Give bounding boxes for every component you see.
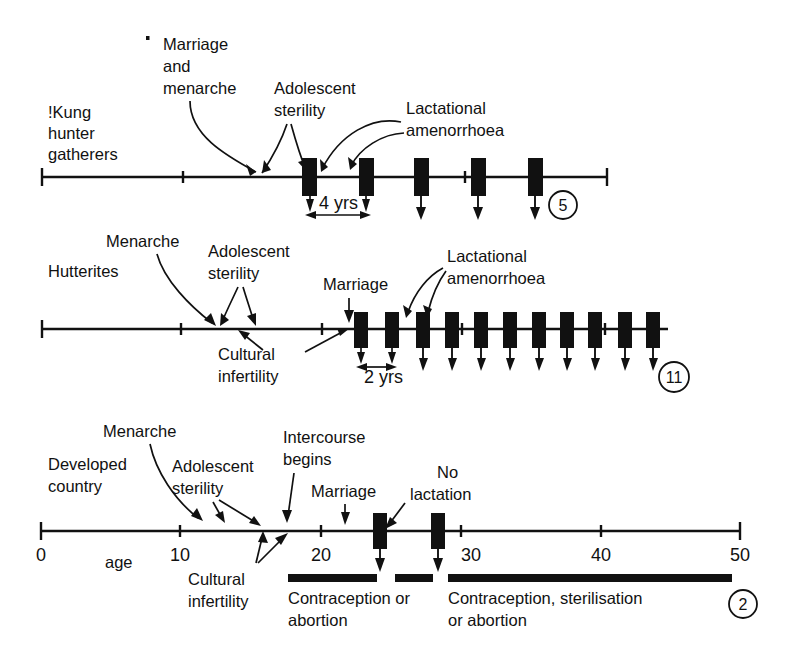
birth-bar xyxy=(373,513,387,549)
birth-bar xyxy=(445,312,459,348)
row-label-developed-line2: country xyxy=(48,477,103,495)
annotation-cultural-infertility-line1: Cultural xyxy=(218,345,275,363)
annotation-ado-sterility-line2: sterility xyxy=(208,264,260,282)
control-band-segment xyxy=(395,574,433,582)
leader-arrowhead-menarche xyxy=(204,313,216,326)
leader-cultural-right xyxy=(305,331,344,352)
axis-tick-label-10: 10 xyxy=(170,545,190,565)
birth-arrowhead xyxy=(433,558,443,572)
annotation-lact-hut-line2: amenorrhoea xyxy=(447,269,546,287)
birth-bar xyxy=(416,312,430,348)
control-band-segment xyxy=(288,574,377,582)
row-label-kung-line1: !Kung xyxy=(48,103,91,121)
births-badge-kung: 5 xyxy=(559,197,568,214)
bracket-arrowhead-right xyxy=(362,199,370,212)
leader-arrowhead-ado-dev-right xyxy=(249,516,261,526)
birth-arrowhead xyxy=(416,207,426,220)
row-label-developed-line1: Developed xyxy=(48,455,127,473)
annotation-ado-dev-line1: Adolescent xyxy=(172,457,254,475)
annotation-menarche-dev: Menarche xyxy=(103,422,176,440)
birth-bar xyxy=(354,312,368,348)
row-label-kung-line3: gatherers xyxy=(48,145,118,163)
lifespan-diagram: !Kung hunter gatherers Marriage and mena… xyxy=(0,0,788,658)
interval-bracket-hutterites: 2 yrs xyxy=(356,346,403,387)
birth-bar xyxy=(646,312,660,348)
birth-arrowhead xyxy=(563,358,572,371)
leader-marriage-menarche xyxy=(190,101,256,172)
annotation-cultural-dev-line1: Cultural xyxy=(188,570,245,588)
annotation-intercourse-line2: begins xyxy=(283,450,332,468)
birth-bar xyxy=(385,312,399,348)
bracket-arrowhead-right xyxy=(388,352,396,364)
birth-bar xyxy=(471,158,486,196)
control-band-label-2-line2: or abortion xyxy=(448,611,527,629)
birth-bar xyxy=(431,513,445,549)
leader-arrowhead-marriage-menarche xyxy=(246,164,256,176)
bracket-span-arrow-left xyxy=(305,211,316,219)
annotation-lactational-amenorrhoea-line1: Lactational xyxy=(406,99,486,117)
bracket-arrowhead-left xyxy=(357,352,365,364)
birth-arrowhead xyxy=(375,558,385,572)
birth-arrowhead xyxy=(477,358,486,371)
annotation-no-lactation-line2: lactation xyxy=(410,485,471,503)
annotation-adolescent-sterility-line1: Adolescent xyxy=(274,79,356,97)
interval-label-hutterites: 2 yrs xyxy=(364,367,403,387)
annotation-marriage-menarche-line1: Marriage xyxy=(163,35,228,53)
annotation-adolescent-sterility-line2: sterility xyxy=(274,101,326,119)
leader-ado-dev-right xyxy=(219,500,255,522)
birth-arrowhead xyxy=(419,358,428,371)
birth-bar xyxy=(414,158,429,196)
annotation-menarche-line1: Menarche xyxy=(106,232,179,250)
birth-arrowhead xyxy=(621,358,630,371)
leader-lact-hut-1 xyxy=(408,268,443,312)
control-band-label-2-line1: Contraception, sterilisation xyxy=(448,589,642,607)
birth-bar xyxy=(474,312,488,348)
row-label-hutterites: Hutterites xyxy=(48,262,119,280)
leader-arrowhead-marriage-hut xyxy=(344,310,354,323)
birth-arrowhead xyxy=(473,207,483,220)
interval-label-kung: 4 yrs xyxy=(319,193,358,213)
annotation-cultural-dev-line2: infertility xyxy=(188,592,249,610)
annotation-lact-hut-line1: Lactational xyxy=(447,247,527,265)
row-label-kung-line2: hunter xyxy=(48,124,95,142)
axis-tick-label-20: 20 xyxy=(311,545,331,565)
birth-arrowhead xyxy=(530,207,540,220)
births-badge-developed: 2 xyxy=(739,596,748,613)
row-kung: !Kung hunter gatherers Marriage and mena… xyxy=(42,35,607,220)
annotation-ado-dev-line2: sterility xyxy=(172,479,224,497)
birth-markers-developed xyxy=(373,513,445,572)
leader-intercourse xyxy=(288,473,294,516)
annotation-intercourse-line1: Intercourse xyxy=(283,428,366,446)
birth-bar xyxy=(302,158,317,196)
birth-arrowhead xyxy=(535,358,544,371)
axis-tick-label-50: 50 xyxy=(730,545,750,565)
annotation-marriage-menarche-line3: menarche xyxy=(163,79,236,97)
annotation-lactational-amenorrhoea-line2: amenorrhoea xyxy=(406,121,505,139)
birth-arrowhead xyxy=(591,358,600,371)
annotation-marriage-hut: Marriage xyxy=(323,275,388,293)
birth-bar xyxy=(528,158,543,196)
leader-arrowhead-menarche-dev xyxy=(191,508,203,521)
birth-markers-hutterites xyxy=(354,312,660,371)
leader-lactational-2 xyxy=(351,133,404,166)
annotation-no-lactation-line1: No xyxy=(437,463,458,481)
row-hutterites: Hutterites Menarche Adolescent sterility… xyxy=(42,232,689,392)
control-band-segment xyxy=(448,574,732,582)
axis-tick-label-0: 0 xyxy=(36,545,46,565)
row-developed-country: Developed country Menarche Adolescent st… xyxy=(36,422,757,629)
ink-speck xyxy=(146,36,150,40)
birth-bar xyxy=(618,312,632,348)
birth-bar xyxy=(503,312,517,348)
birth-bar xyxy=(532,312,546,348)
annotation-ado-sterility-line1: Adolescent xyxy=(208,242,290,260)
leader-arrowhead-ado-dev-left xyxy=(215,511,225,523)
birth-arrowhead xyxy=(649,358,658,371)
leader-menarche xyxy=(157,254,212,323)
annotation-marriage-menarche-line2: and xyxy=(163,57,191,75)
axis-label-age: age xyxy=(105,553,133,571)
birth-bar xyxy=(560,312,574,348)
birth-arrowhead xyxy=(448,358,457,371)
control-band-label-1-line1: Contraception or xyxy=(288,589,410,607)
axis-tick-label-30: 30 xyxy=(461,545,481,565)
births-badge-hutterites: 11 xyxy=(666,369,683,386)
